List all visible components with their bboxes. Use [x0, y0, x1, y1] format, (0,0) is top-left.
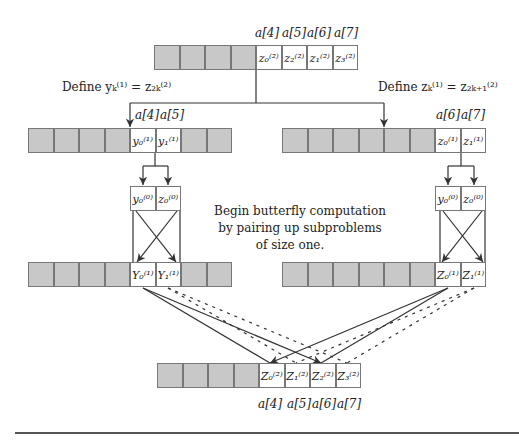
array-cell: [410, 128, 436, 153]
array-cell: y₀⁽¹⁾: [130, 128, 156, 153]
array-cell: Z₂⁽²⁾: [310, 363, 336, 388]
index-label: a[5]: [287, 397, 311, 411]
index-label: a[5]: [282, 26, 306, 40]
array-cell: [359, 262, 385, 287]
array-cell: [54, 128, 80, 153]
array-cell: [207, 262, 233, 287]
array-cell: [79, 262, 105, 287]
index-label: a[7]: [461, 108, 485, 122]
array-cell: z₃⁽²⁾: [333, 45, 359, 70]
array-cell: [308, 128, 334, 153]
array-cell: Z₁⁽¹⁾: [461, 262, 487, 287]
array-cell: [183, 363, 209, 388]
index-label: a[4]: [258, 397, 282, 411]
index-label: a[4]: [135, 108, 159, 122]
array-cell: z₂⁽²⁾: [282, 45, 308, 70]
array-cell: y₁⁽¹⁾: [156, 128, 182, 153]
index-label: a[6]: [436, 108, 460, 122]
caption-line: Begin butterfly computation: [200, 203, 400, 220]
array-cell: [181, 262, 207, 287]
array-cell: Y₁⁽¹⁾: [156, 262, 182, 287]
index-label: a[4]: [255, 26, 279, 40]
array-cell: Z₀⁽²⁾: [259, 363, 285, 388]
array-cell: [208, 363, 234, 388]
define-left-label: Define yₖ⁽¹⁾ = z₂ₖ⁽²⁾: [62, 80, 171, 94]
index-label: a[5]: [160, 108, 184, 122]
array-cell: [105, 262, 131, 287]
right-pair-y: y₀⁽⁰⁾: [435, 186, 461, 211]
array-cell: [333, 128, 359, 153]
array-cell: Z₁⁽²⁾: [285, 363, 311, 388]
array-cell: [333, 262, 359, 287]
array-cell: Z₃⁽²⁾: [336, 363, 362, 388]
array-cell: Y₀⁽¹⁾: [130, 262, 156, 287]
left-pair-z: z₀⁽⁰⁾: [156, 186, 182, 211]
array-cell: z₁⁽¹⁾: [461, 128, 487, 153]
index-label: a[6]: [307, 26, 331, 40]
array-cell: [157, 363, 183, 388]
array-cell: z₀⁽²⁾: [256, 45, 282, 70]
array-cell: [384, 262, 410, 287]
array-cell: [28, 262, 54, 287]
right-pair-z: z₀⁽⁰⁾: [461, 186, 487, 211]
array-cell: [359, 128, 385, 153]
array-cell: [181, 128, 207, 153]
define-right-label: Define zₖ⁽¹⁾ = z₂ₖ₊₁⁽²⁾: [378, 80, 498, 94]
array-cell: z₀⁽¹⁾: [435, 128, 461, 153]
array-cell: [28, 128, 54, 153]
array-cell: z₁⁽²⁾: [307, 45, 333, 70]
array-cell: [180, 45, 206, 70]
array-cell: [205, 45, 231, 70]
index-label: a[6]: [312, 397, 336, 411]
array-cell: [154, 45, 180, 70]
array-cell: [54, 262, 80, 287]
bottom-rule: [15, 432, 519, 434]
array-cell: [234, 363, 260, 388]
index-label: a[7]: [337, 397, 361, 411]
array-cell: [231, 45, 257, 70]
left-pair-y: y₀⁽⁰⁾: [130, 186, 156, 211]
array-cell: [282, 262, 308, 287]
array-cell: [410, 262, 436, 287]
index-label: a[7]: [334, 26, 358, 40]
array-cell: [207, 128, 233, 153]
array-cell: [282, 128, 308, 153]
array-cell: [105, 128, 131, 153]
array-cell: [384, 128, 410, 153]
array-cell: Z₀⁽¹⁾: [435, 262, 461, 287]
array-cell: [308, 262, 334, 287]
array-cell: [79, 128, 105, 153]
caption-line: of size one.: [200, 237, 380, 254]
caption-line: by pairing up subproblems: [200, 220, 400, 237]
